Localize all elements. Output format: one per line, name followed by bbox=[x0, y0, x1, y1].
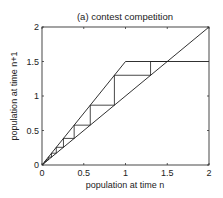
y-tick-label: 0 bbox=[34, 160, 39, 170]
y-tick-label: 0.5 bbox=[26, 126, 39, 136]
y-tick-label: 1 bbox=[34, 91, 39, 101]
x-tick-label: 1 bbox=[123, 168, 128, 178]
y-tick-label: 1.5 bbox=[26, 57, 39, 67]
x-tick-label: 1.5 bbox=[161, 168, 174, 178]
plot-area bbox=[42, 27, 209, 165]
y-axis-label: population at time n+1 bbox=[9, 52, 19, 141]
y-axis-ticks: 00.511.52 bbox=[26, 22, 209, 170]
x-axis-label: population at time n bbox=[86, 180, 165, 190]
chart: (a) contest competition 00.511.52 00.511… bbox=[0, 0, 223, 198]
x-tick-label: 2 bbox=[206, 168, 211, 178]
identity-line bbox=[42, 27, 209, 165]
map-line bbox=[42, 62, 209, 166]
chart-title: (a) contest competition bbox=[77, 11, 173, 22]
y-tick-label: 2 bbox=[34, 22, 39, 32]
x-tick-label: 0 bbox=[39, 168, 44, 178]
x-axis-ticks: 00.511.52 bbox=[39, 27, 211, 178]
x-tick-label: 0.5 bbox=[77, 168, 90, 178]
